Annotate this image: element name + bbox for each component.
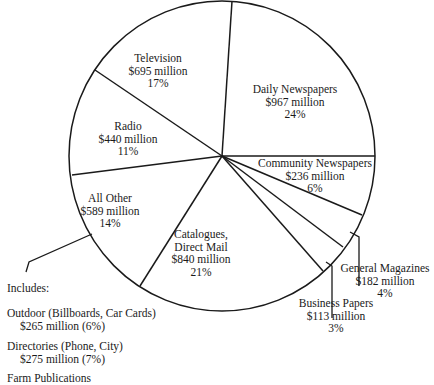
- includes-item-outdoor: Outdoor (Billboards, Car Cards) $265 mil…: [7, 307, 156, 332]
- includes-item-directories: Directories (Phone, City) $275 million (…: [7, 340, 123, 365]
- includes-heading: Includes:: [7, 282, 49, 295]
- label-radio: Radio $440 million 11%: [78, 120, 178, 158]
- label-business-papers: Business Papers $113 million 3%: [292, 297, 380, 335]
- label-general-magazines: General Magazines $182 million 4%: [336, 262, 434, 300]
- label-community-newspapers: Community Newspapers $236 million 6%: [253, 157, 377, 195]
- label-television: Television $695 million 17%: [108, 52, 208, 90]
- label-all-other: All Other $589 million 14%: [60, 192, 160, 230]
- includes-item-farm-publications: Farm Publications: [7, 372, 91, 385]
- label-catalogues-direct-mail: Catalogues, Direct Mail $840 million 21%: [151, 228, 251, 278]
- label-daily-newspapers: Daily Newspapers $967 million 24%: [240, 83, 350, 121]
